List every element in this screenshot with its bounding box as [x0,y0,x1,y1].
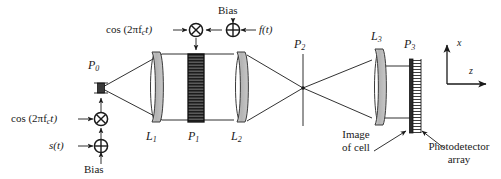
carrier-label-top: cos (2πfct) [106,24,152,37]
annotation-photodetector-array: Photodetector array [420,140,498,165]
annotation-photodetector-array-line2: array [420,153,498,166]
multiplier-node-top [189,23,202,36]
ray-bundle-l3-to-detector [385,66,410,118]
annotation-image-of-cell: Image of cell [330,128,382,153]
top-input-chain [173,18,256,50]
left-input-chain [78,98,101,164]
lens-label-l2: L2 [231,130,242,144]
point-source-p0 [94,83,108,93]
lens-label-l3: L3 [371,30,382,44]
multiplier-node-left [94,112,107,125]
fourier-plane-p2 [301,54,305,126]
adder-node-top [226,23,239,36]
axis-label-x: x [457,38,461,48]
carrier-label-left: cos (2πfct) [11,113,57,126]
signal-label-f-of-t: f(t) [259,24,272,35]
lens-label-l1: L1 [146,130,157,144]
plane-label-p2: P2 [294,38,305,52]
photodetector-array-p3 [410,59,422,133]
coordinate-axes [447,45,486,84]
plane-label-p0: P0 [88,59,99,73]
plane-label-p1: P1 [188,130,199,144]
adder-node-left [94,139,107,152]
ray-bundle-l2-to-p2-to-l3 [247,55,372,121]
annotation-photodetector-array-line1: Photodetector [420,140,498,153]
plane-label-p3: P3 [404,38,415,52]
lens-l1 [151,52,164,122]
annotation-image-of-cell-line1: Image [330,128,382,141]
acousto-optic-cell-p1 [188,54,204,122]
bias-label-top: Bias [218,5,238,16]
annotation-image-of-cell-line2: of cell [330,141,382,154]
lens-l2 [236,52,249,122]
bias-label-left: Bias [84,164,104,175]
lens-l3 [375,49,387,125]
ray-bundle-source-to-l1 [101,54,162,120]
signal-label-s-of-t: s(t) [49,140,64,151]
axis-label-z: z [469,66,473,76]
figure-canvas: P0 cos (2πfct) s(t) Bias L1 P1 cos (2πfc… [0,0,501,179]
